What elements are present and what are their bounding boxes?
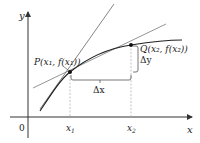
x2-tick-label: x2 [127,123,136,134]
secant-tangent-diagram: y x 0 x1 x2 P(x₁, f(x₁)) Q(x₂, f(x₂)) Δx… [0,0,200,143]
x1-tick-label: x1 [66,123,75,134]
dx-label: Δx [93,85,105,95]
axes [10,12,192,138]
y-axis-label: y [18,10,25,21]
dy-bracket [133,46,138,72]
dx-bracket [71,75,131,80]
origin-label: 0 [19,123,25,133]
point-q-label: Q(x₂, f(x₂)) [140,44,188,54]
point-q [129,43,133,47]
dy-label: Δy [140,55,152,65]
point-p-label: P(x₁, f(x₁)) [33,57,81,67]
x-axis-label: x [187,124,193,135]
point-p [68,70,72,74]
